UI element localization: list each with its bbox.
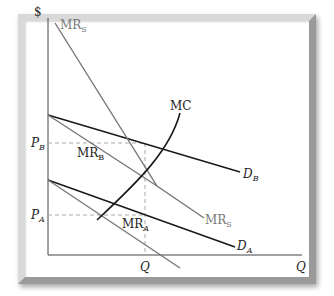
pb-tick-label: PB xyxy=(30,136,45,152)
price-discrimination-diagram: $ Q PB PA Q MRS MC MRB DB MRS MRA DA xyxy=(0,0,334,296)
mc-curve xyxy=(97,113,180,220)
mc-label: MC xyxy=(170,99,191,113)
x-axis-label: Q xyxy=(296,260,306,274)
d-a-label: DA xyxy=(236,239,253,255)
y-axis-label: $ xyxy=(34,5,42,19)
mr-b-curve xyxy=(48,115,157,186)
pa-tick-label: PA xyxy=(30,208,45,224)
mr-s-top-label: MRS xyxy=(60,18,87,34)
q-tick-label: Q xyxy=(140,260,150,274)
d-b-label: DB xyxy=(242,167,259,183)
mr-s-label: MRS xyxy=(205,213,232,229)
mr-a-label: MRA xyxy=(122,217,149,233)
